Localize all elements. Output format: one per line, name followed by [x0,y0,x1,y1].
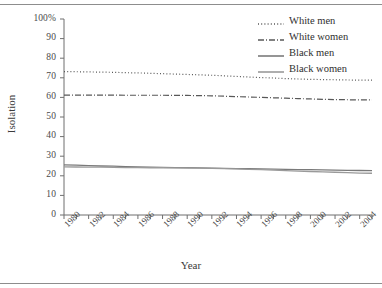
x-axis-title: Year [0,259,382,271]
y-axis-tick-label: 80 [14,52,56,62]
legend-item-white-men[interactable]: White men [258,12,382,28]
y-axis-tick-label: 40 [14,130,56,140]
legend-item-white-women[interactable]: White women [258,28,382,44]
y-axis-tick-label: 100% [14,13,56,23]
legend-item-black-men[interactable]: Black men [258,44,382,60]
y-axis-tick-label: 10 [14,189,56,199]
y-axis-tick-label: 90 [14,32,56,42]
legend-line-sample-icon [258,47,284,57]
figure-container: Isolation Year White menWhite womenBlack… [0,0,382,288]
legend-item-label: Black men [289,47,334,58]
y-axis-tick-label: 20 [14,169,56,179]
legend-line-sample-icon [258,15,284,25]
legend-item-label: White women [289,31,348,42]
y-axis-tick-label: 60 [14,91,56,101]
y-axis-tick-label: 0 [14,209,56,219]
legend-item-black-women[interactable]: Black women [258,60,382,76]
legend-line-sample-icon [258,31,284,41]
y-axis-tick-label: 50 [14,111,56,121]
series-line-white-women [64,95,372,100]
y-axis-tick-label: 30 [14,150,56,160]
legend-item-label: White men [289,15,335,26]
legend-line-sample-icon [258,63,284,73]
y-axis-tick-label: 70 [14,71,56,81]
legend-item-label: Black women [289,63,347,74]
chart-legend: White menWhite womenBlack menBlack women [258,12,382,76]
